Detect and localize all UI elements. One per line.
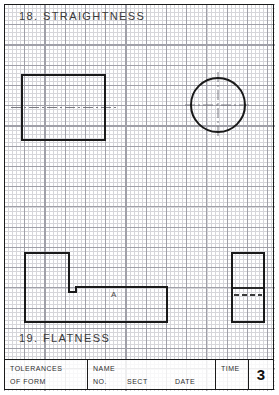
name-label: NAME xyxy=(93,362,215,375)
tolerances-line-2: OF FORM xyxy=(10,375,87,388)
sect-label: SECT xyxy=(127,375,175,388)
title-block-cell-sheet-number: 3 xyxy=(248,360,273,389)
page-margin-right xyxy=(275,0,279,395)
worksheet-page: 18. STRAIGHTNESS 19. FLATNESS A xyxy=(0,0,279,395)
title-block-cell-name[interactable]: NAME NO. SECT DATE xyxy=(87,360,215,389)
section-heading-flatness: 19. FLATNESS xyxy=(19,332,110,344)
time-label: TIME xyxy=(221,362,248,375)
tolerances-line-1: TOLERANCES xyxy=(10,362,87,375)
date-label: DATE xyxy=(175,375,215,388)
sheet-number: 3 xyxy=(257,367,265,382)
section-heading-straightness: 18. STRAIGHTNESS xyxy=(19,10,145,22)
no-label: NO. xyxy=(93,375,127,388)
part-label-a: A xyxy=(111,290,116,299)
title-block: TOLERANCES OF FORM NAME NO. SECT DATE TI… xyxy=(4,359,274,390)
title-block-cell-time[interactable]: TIME xyxy=(215,360,248,389)
title-block-cell-tolerances: TOLERANCES OF FORM xyxy=(5,360,87,389)
page-margin-bottom xyxy=(0,391,279,395)
